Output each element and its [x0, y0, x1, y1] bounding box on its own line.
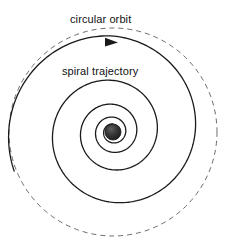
central-body-icon: [105, 124, 121, 140]
figure-container: circular orbit spiral trajectory: [0, 0, 226, 245]
central-body-group: [105, 124, 121, 140]
orbit-diagram-svg: [0, 0, 226, 245]
circular-orbit-label: circular orbit: [70, 14, 131, 25]
spiral-trajectory-path: [9, 36, 196, 203]
spiral-trajectory-group: [9, 36, 196, 203]
direction-arrow-icon: [105, 38, 118, 47]
spiral-trajectory-label: spiral trajectory: [62, 66, 138, 77]
